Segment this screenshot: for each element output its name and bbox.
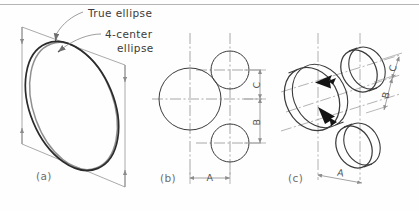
panel-a-caption: (a) [36, 170, 52, 182]
panel-c-caption: (c) [288, 172, 303, 184]
four-center-ellipse-label-line1: 4-center [105, 28, 153, 40]
panel-b-caption: (b) [160, 172, 176, 184]
four-center-ellipse-leader-arrow [58, 48, 63, 52]
panel-c-dim-b-label: B [379, 91, 391, 100]
four-center-ellipse-label-line2: ellipse [117, 42, 154, 54]
panel-c-arrow-down [318, 107, 337, 126]
panel-c-dim-c-label: C [386, 63, 398, 72]
panel-b-dim-a: A [190, 170, 230, 184]
panel-a: True ellipse 4-center ellipse (a) [7, 7, 153, 187]
panel-c-dim-a-label: A [336, 167, 345, 179]
panel-b-dim-c-label: C [251, 81, 262, 88]
panel-b-extension-lines [244, 70, 266, 143]
panel-b-dim-c: C [251, 70, 262, 99]
panel-b-dim-a-label: A [207, 172, 214, 183]
panel-a-rhombus [22, 27, 125, 187]
panel-c-dim-a: A [318, 167, 362, 183]
panel-b-dim-b: B [251, 99, 262, 143]
true-ellipse-label: True ellipse [87, 7, 152, 19]
true-ellipse-leader [57, 12, 84, 34]
panel-b: C B A (b) [152, 33, 266, 184]
panel-c-upper-cylinder [334, 41, 393, 99]
four-center-ellipse-leader [63, 34, 101, 48]
technical-drawing-figure: True ellipse 4-center ellipse (a) [0, 0, 419, 211]
panel-c-extension-lines [366, 53, 402, 113]
panel-a-vertex-ticks [22, 27, 125, 187]
panel-b-dim-b-label: B [251, 119, 262, 126]
figure-canvas: True ellipse 4-center ellipse (a) [0, 0, 419, 211]
panel-c: C B A (c) [274, 33, 402, 184]
panel-c-large-cylinder [274, 55, 359, 141]
